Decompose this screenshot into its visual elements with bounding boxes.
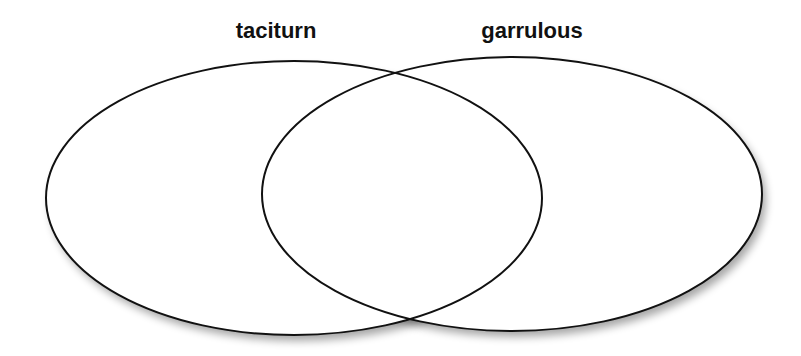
venn-diagram: taciturn garrulous — [0, 0, 801, 356]
taciturn-label: taciturn — [236, 18, 317, 43]
garrulous-ellipse-fill — [262, 57, 762, 331]
garrulous-label: garrulous — [481, 18, 582, 43]
